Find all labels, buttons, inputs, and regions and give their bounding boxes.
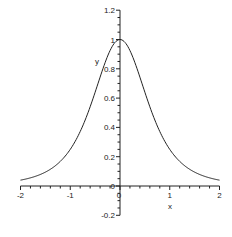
x-tick-label: -2 bbox=[17, 191, 25, 200]
y-tick-label: 1.2 bbox=[104, 6, 116, 15]
x-tick-label: 2 bbox=[217, 191, 222, 200]
y-tick-label: 0.8 bbox=[104, 65, 116, 74]
y-axis-label: y bbox=[95, 57, 99, 66]
line-chart: -2-1012-0.200.20.40.60.811.2 x y bbox=[0, 0, 232, 237]
y-tick-label: 0.2 bbox=[104, 153, 116, 162]
y-tick-label: 0.4 bbox=[104, 123, 116, 132]
y-tick-label: 0.6 bbox=[104, 94, 116, 103]
x-tick-label: -1 bbox=[67, 191, 75, 200]
y-tick-label: 0 bbox=[111, 182, 116, 191]
x-tick-label: 1 bbox=[168, 191, 173, 200]
x-axis-label: x bbox=[168, 202, 172, 211]
x-tick-label: 0 bbox=[117, 191, 122, 200]
y-tick-label: -0.2 bbox=[101, 211, 115, 220]
